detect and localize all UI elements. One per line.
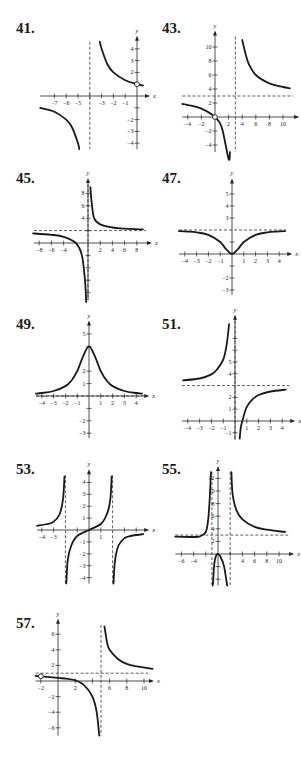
- y-tick-label: −2: [79, 551, 85, 557]
- y-axis-arrow-icon: [216, 466, 220, 471]
- graphs-canvas: xy−7−6−5−3−2−1−4−3−2234xy−4−2246810−4−22…: [0, 0, 301, 765]
- open-point-icon: [213, 115, 218, 120]
- x-tick-label: 8: [125, 685, 128, 691]
- exercise-number-47: 47.: [162, 170, 181, 187]
- x-axis-arrow-icon: [294, 115, 299, 119]
- x-tick-label: 4: [135, 400, 138, 406]
- x-tick-label: −3: [98, 100, 104, 106]
- x-tick-label: 1: [242, 258, 245, 264]
- y-tick-label: 10: [206, 44, 212, 50]
- x-tick-label: 4: [241, 121, 244, 127]
- x-tick-label: −3: [50, 534, 56, 540]
- y-axis-label: y: [213, 22, 217, 29]
- y-tick-label: −2: [205, 128, 211, 134]
- y-axis-arrow-icon: [86, 178, 90, 183]
- exercise-number-55: 55.: [162, 461, 181, 478]
- curve-left-branch: [175, 472, 211, 537]
- y-tick-label: 3: [226, 215, 229, 221]
- y-tick-label: −4: [127, 140, 133, 146]
- x-tick-label: 4: [278, 258, 281, 264]
- y-tick-label: 4: [226, 203, 229, 209]
- curve-left-branch: [183, 324, 229, 380]
- x-tick-label: −3: [50, 400, 56, 406]
- x-axis-arrow-icon: [289, 552, 294, 556]
- y-tick-label: −4: [48, 709, 54, 715]
- y-tick-label: 5: [229, 359, 232, 365]
- graph-43: xy−4−2246810−4−2246810: [182, 22, 301, 160]
- x-tick-label: 2: [257, 425, 260, 431]
- y-axis-arrow-icon: [230, 178, 234, 183]
- exercise-number-57: 57.: [16, 615, 35, 632]
- y-tick-label: 6: [212, 513, 215, 519]
- x-axis-arrow-icon: [149, 679, 154, 683]
- y-axis-arrow-icon: [213, 31, 217, 36]
- y-tick-label: 5: [226, 191, 229, 197]
- y-tick-label: 1: [83, 381, 86, 387]
- x-tick-label: −4: [185, 425, 191, 431]
- y-axis-label: y: [216, 457, 220, 464]
- x-tick-label: −1: [217, 258, 223, 264]
- y-tick-label: −3: [222, 287, 228, 293]
- graph-51: xy−4−3−2−11234−11245: [182, 306, 301, 440]
- curve-right-branch: [114, 534, 144, 583]
- open-point-icon: [135, 82, 140, 87]
- y-tick-label: 8: [212, 501, 215, 507]
- x-tick-label: 2: [74, 685, 77, 691]
- y-tick-label: 2: [83, 368, 86, 374]
- curve-right-branch: [104, 626, 152, 669]
- x-tick-label: 4: [111, 247, 114, 253]
- exercise-number-45: 45.: [16, 170, 35, 187]
- y-tick-label: 3: [131, 58, 134, 64]
- curve-right-branch: [240, 390, 286, 439]
- x-tick-label: 8: [268, 121, 271, 127]
- x-tick-label: −6: [63, 100, 69, 106]
- curve-left-branch: [36, 676, 100, 736]
- y-tick-label: −3: [127, 128, 133, 134]
- y-tick-label: 4: [212, 526, 215, 532]
- x-tick-label: 3: [266, 258, 269, 264]
- x-axis-label: x: [151, 526, 155, 533]
- x-tick-label: 2: [99, 247, 102, 253]
- y-axis-arrow-icon: [233, 315, 237, 320]
- y-tick-label: 2: [131, 69, 134, 75]
- x-tick-label: 4: [281, 425, 284, 431]
- x-axis-label: x: [294, 250, 298, 257]
- y-axis-label: y: [86, 169, 90, 176]
- x-tick-label: −4: [185, 121, 191, 127]
- x-axis-arrow-icon: [145, 94, 150, 98]
- y-tick-label: −6: [48, 725, 54, 731]
- x-tick-label: −4: [39, 400, 45, 406]
- y-axis-arrow-icon: [135, 36, 139, 41]
- y-tick-label: 4: [83, 479, 86, 485]
- x-tick-label: −3: [193, 258, 199, 264]
- curve-middle-branch: [213, 554, 227, 586]
- x-tick-label: −2: [208, 425, 214, 431]
- x-axis-arrow-icon: [144, 394, 149, 398]
- y-axis-label: y: [87, 460, 91, 467]
- x-tick-label: 8: [135, 247, 138, 253]
- x-axis-arrow-icon: [144, 528, 149, 532]
- x-tick-label: −4: [182, 258, 188, 264]
- y-tick-label: 1: [83, 515, 86, 521]
- x-axis-label: x: [297, 417, 301, 424]
- x-tick-label: 10: [276, 558, 282, 564]
- graph-49: xy−4−3−2−11234−3−2125: [36, 312, 155, 439]
- graph-53: xy−4−31−4−3−2−11234: [37, 460, 155, 583]
- y-axis-label: y: [135, 27, 139, 34]
- exercise-number-43: 43.: [162, 20, 181, 37]
- x-tick-label: 1: [245, 425, 248, 431]
- x-tick-label: 3: [269, 425, 272, 431]
- y-tick-label: −4: [205, 142, 211, 148]
- x-axis-label: x: [154, 239, 158, 246]
- y-axis-label: y: [87, 312, 91, 319]
- x-tick-label: −2: [110, 100, 116, 106]
- y-tick-label: 2: [52, 662, 55, 668]
- graph-55: xy−6−44681024681012: [175, 457, 300, 585]
- x-axis-arrow-icon: [290, 419, 295, 423]
- y-tick-label: 2: [209, 100, 212, 106]
- y-axis-label: y: [230, 169, 234, 176]
- x-tick-label: 6: [254, 121, 257, 127]
- graph-47: xy−4−3−2−11234−3−2345: [179, 169, 298, 294]
- graph-57: xy−226810−6−4−2246: [36, 610, 160, 736]
- y-axis-label: y: [233, 306, 237, 313]
